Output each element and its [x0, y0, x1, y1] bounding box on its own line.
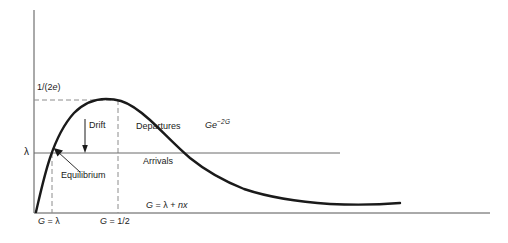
chart-plot-area: [0, 0, 508, 243]
exponent-minus-two-g: −2G: [217, 118, 230, 125]
x-tick-label-equilibrium: G = λ: [38, 217, 60, 226]
figure-canvas: 1/(2e) λ Drift Departures Ge−2G Arrivals…: [0, 0, 508, 243]
annotation-arrivals: Arrivals: [143, 157, 173, 166]
y-tick-label-peak: 1/(2e): [37, 83, 61, 92]
x-tick-label-peak: G = 1/2: [100, 217, 130, 226]
series-curve-departures: [36, 99, 400, 212]
annotation-growth-equation: G = λ + nx: [146, 201, 188, 210]
equilibrium-leader-arrow: [54, 148, 80, 172]
y-tick-label-lambda: λ: [24, 147, 29, 157]
drift-arrow: [82, 119, 88, 153]
annotation-equilibrium: Equilibrium: [61, 171, 106, 180]
annotation-drift: Drift: [89, 121, 106, 130]
annotation-curve-equation: Ge−2G: [205, 119, 230, 130]
annotation-departures: Departures: [136, 122, 181, 131]
